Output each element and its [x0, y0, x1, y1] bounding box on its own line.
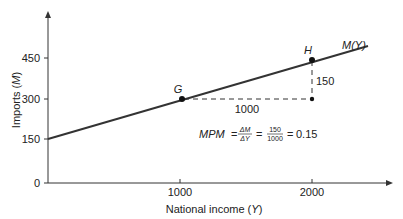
corner-point [310, 97, 314, 101]
y-tick-300: 300 [22, 93, 40, 105]
import-function-line [48, 46, 368, 139]
x-axis: 1000 2000 National income (Y) [48, 179, 393, 215]
y-tick-150: 150 [22, 133, 40, 145]
formula-num1: ΔM [239, 126, 251, 133]
delta-m-label: 150 [316, 75, 334, 87]
formula-lhs: MPM [199, 128, 226, 140]
y-axis-arrow-icon [45, 11, 51, 18]
formula-den1: ΔY [239, 135, 251, 142]
point-h [309, 57, 315, 63]
formula-den2: 1000 [267, 135, 283, 142]
equals-3: = [287, 128, 293, 140]
y-axis: 0 150 300 450 Imports (M) [10, 11, 51, 189]
y-tick-450: 450 [22, 52, 40, 64]
x-tick-2000: 2000 [300, 186, 324, 198]
point-g-label: G [174, 83, 183, 95]
point-h-label: H [304, 44, 312, 56]
formula-result: 0.15 [296, 128, 317, 140]
mpm-chart: 0 150 300 450 Imports (M) 1000 2000 Nati… [0, 0, 403, 219]
y-axis-label: Imports (M) [10, 72, 22, 128]
y-tick-0: 0 [34, 177, 40, 189]
mpm-formula: MPM = ΔM ΔY = 150 1000 = 0.15 [199, 126, 317, 142]
x-axis-label: National income (Y) [166, 203, 263, 215]
x-axis-arrow-icon [386, 180, 393, 186]
line-label: M(Y) [342, 39, 366, 51]
equals-1: = [231, 128, 237, 140]
point-g [179, 96, 185, 102]
equals-2: = [256, 128, 262, 140]
formula-num2: 150 [269, 126, 281, 133]
x-tick-1000: 1000 [168, 186, 192, 198]
delta-y-label: 1000 [235, 103, 259, 115]
